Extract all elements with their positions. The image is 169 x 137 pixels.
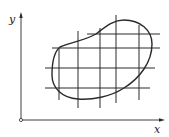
y-axis-label: y	[9, 13, 15, 26]
x-axis-arrow-icon	[159, 118, 165, 121]
region-boundary-curve	[52, 20, 152, 99]
x-axis-label: x	[154, 123, 160, 136]
origin-marker	[19, 118, 22, 121]
y-axis-arrow-icon	[19, 12, 22, 18]
region-grid-diagram	[0, 0, 169, 137]
